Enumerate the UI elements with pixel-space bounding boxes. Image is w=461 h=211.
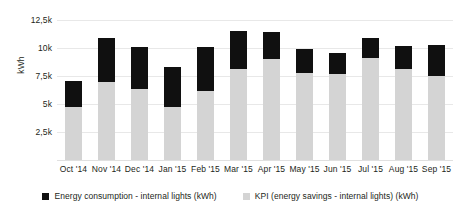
bar-segment-consumption[interactable] [296, 49, 313, 73]
chart-legend: Energy consumption - internal lights (kW… [0, 188, 461, 204]
bar-group[interactable] [98, 20, 115, 160]
bar-segment-consumption[interactable] [329, 53, 346, 74]
bar-segment-consumption[interactable] [131, 47, 148, 90]
plot-area [57, 20, 453, 160]
bar-segment-kpi[interactable] [395, 69, 412, 160]
x-axis-tick-label: Oct '14 [57, 163, 90, 175]
bar-group[interactable] [395, 20, 412, 160]
legend-item[interactable]: KPI (energy savings - internal lights) (… [243, 191, 419, 201]
x-axis-tick-label: Jun '15 [321, 163, 354, 175]
y-axis-tick-label: 12,5k [6, 16, 52, 25]
bars-layer [57, 20, 453, 160]
x-axis-tick-label: Jan '15 [156, 163, 189, 175]
x-axis-tick-label: Nov '14 [90, 163, 123, 175]
x-axis-tick-label: Sep '15 [420, 163, 453, 175]
bar-segment-kpi[interactable] [230, 69, 247, 160]
bar-group[interactable] [329, 20, 346, 160]
legend-label: KPI (energy savings - internal lights) (… [255, 191, 419, 201]
legend-swatch-icon [42, 193, 49, 200]
bar-segment-kpi[interactable] [329, 74, 346, 160]
bar-group[interactable] [230, 20, 247, 160]
bar-group[interactable] [164, 20, 181, 160]
legend-label: Energy consumption - internal lights (kW… [54, 191, 216, 201]
axis-baseline [57, 160, 453, 161]
x-axis-tick-label: Dec '14 [123, 163, 156, 175]
bar-group[interactable] [263, 20, 280, 160]
y-axis-tick-label: 7,5k [6, 72, 52, 81]
x-axis-tick-labels: Oct '14Nov '14Dec '14Jan '15Feb '15Mar '… [57, 163, 453, 177]
bar-segment-kpi[interactable] [65, 107, 82, 160]
bar-group[interactable] [428, 20, 445, 160]
bar-segment-consumption[interactable] [98, 38, 115, 82]
bar-segment-consumption[interactable] [395, 46, 412, 70]
bar-segment-consumption[interactable] [362, 38, 379, 58]
x-axis-tick-label: Mar '15 [222, 163, 255, 175]
x-axis-tick-label: May '15 [288, 163, 321, 175]
x-axis-tick-label: Apr '15 [255, 163, 288, 175]
bar-segment-consumption[interactable] [164, 67, 181, 107]
bar-group[interactable] [197, 20, 214, 160]
bar-group[interactable] [131, 20, 148, 160]
y-axis-tick-labels: 12,5k10k7,5k5k2,5k [0, 20, 52, 160]
bar-segment-kpi[interactable] [98, 82, 115, 160]
bar-segment-consumption[interactable] [263, 32, 280, 59]
bar-segment-kpi[interactable] [164, 107, 181, 160]
bar-group[interactable] [65, 20, 82, 160]
legend-item[interactable]: Energy consumption - internal lights (kW… [42, 191, 216, 201]
bar-segment-kpi[interactable] [131, 89, 148, 160]
legend-swatch-icon [243, 193, 250, 200]
bar-segment-consumption[interactable] [428, 45, 445, 76]
bar-segment-kpi[interactable] [296, 73, 313, 160]
bar-segment-kpi[interactable] [263, 59, 280, 160]
x-axis-tick-label: Feb '15 [189, 163, 222, 175]
bar-group[interactable] [362, 20, 379, 160]
stacked-bar-chart: kWh 12,5k10k7,5k5k2,5k Oct '14Nov '14Dec… [0, 0, 461, 211]
x-axis-tick-label: Aug '15 [387, 163, 420, 175]
bar-segment-consumption[interactable] [197, 47, 214, 91]
bar-segment-kpi[interactable] [197, 91, 214, 160]
bar-group[interactable] [296, 20, 313, 160]
x-axis-tick-label: Jul '15 [354, 163, 387, 175]
bar-segment-kpi[interactable] [428, 76, 445, 160]
bar-segment-consumption[interactable] [230, 31, 247, 69]
y-axis-tick-label: 2,5k [6, 128, 52, 137]
bar-segment-consumption[interactable] [65, 81, 82, 108]
bar-segment-kpi[interactable] [362, 58, 379, 160]
y-axis-tick-label: 5k [6, 100, 52, 109]
y-axis-tick-label: 10k [6, 44, 52, 53]
